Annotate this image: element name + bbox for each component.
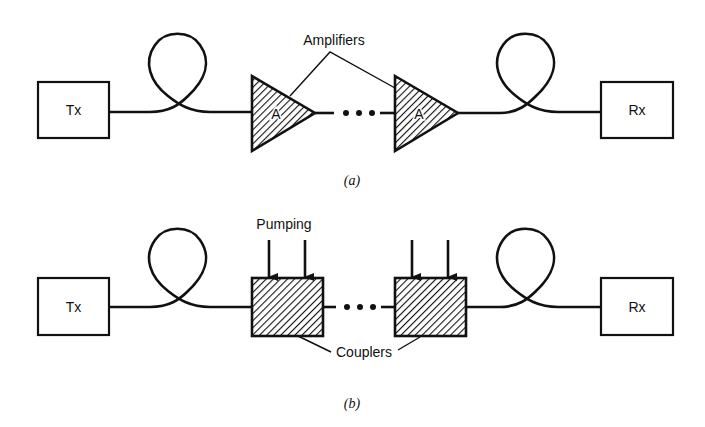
- amplifiers-callout-label: Amplifiers: [303, 32, 364, 48]
- caption-a: (a): [344, 173, 361, 189]
- couplers-callout-label: Couplers: [336, 344, 392, 360]
- ellipsis-b: [344, 304, 376, 310]
- receiver-label-b: Rx: [628, 299, 645, 315]
- amplifier-1-label: A: [271, 106, 281, 122]
- receiver-box-b: Rx: [601, 278, 673, 335]
- transmitter-label: Tx: [66, 102, 82, 118]
- transmitter-box-b: Tx: [38, 278, 109, 335]
- caption-b: (b): [344, 396, 361, 412]
- transmitter-box: Tx: [38, 82, 109, 138]
- panel-b: Tx Rx: [38, 216, 673, 412]
- fiber-loop-left-b: [109, 229, 252, 307]
- receiver-box: Rx: [601, 82, 673, 138]
- coupler-2: [395, 278, 466, 336]
- coupler-1: [252, 278, 323, 336]
- pump-arrows-2: [412, 240, 448, 277]
- transmitter-label-b: Tx: [66, 299, 82, 315]
- pump-arrows-1: [269, 240, 305, 277]
- fiber-loop-right-b: [466, 229, 601, 307]
- couplers-leader-right: [398, 337, 420, 350]
- amplifier-2-label: A: [414, 106, 424, 122]
- optical-link-diagram: Tx A A Rx Amplifiers: [0, 0, 705, 427]
- pumping-label: Pumping: [256, 216, 311, 232]
- fiber-loop-right: [458, 34, 601, 113]
- receiver-label: Rx: [628, 102, 645, 118]
- couplers-leader-left: [298, 336, 331, 352]
- amplifier-1: A: [252, 76, 315, 151]
- fiber-loop-left: [109, 34, 252, 112]
- amplifiers-leader-lines: [290, 52, 395, 96]
- panel-a: Tx A A Rx Amplifiers: [38, 32, 673, 189]
- amplifier-2: A: [395, 76, 458, 151]
- ellipsis-a: [343, 110, 375, 116]
